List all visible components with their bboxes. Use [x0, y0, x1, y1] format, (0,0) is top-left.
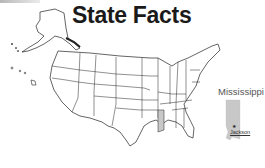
alaska-shape	[11, 9, 80, 52]
capital-label: Jackson	[230, 129, 250, 135]
hawaii-shape	[11, 67, 36, 85]
contiguous-us-shape	[50, 44, 220, 146]
mississippi-highlight	[158, 110, 164, 132]
state-name-label: Mississippi	[218, 86, 264, 97]
page-title: State Facts	[72, 2, 191, 29]
